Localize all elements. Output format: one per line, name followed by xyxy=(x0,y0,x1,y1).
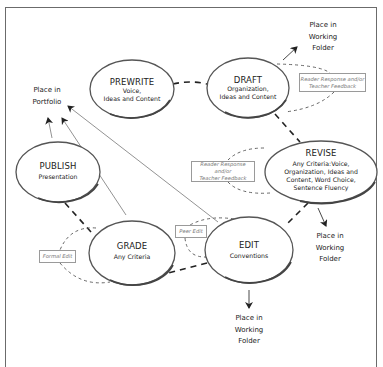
prewrite-subtitle-2: Ideas and Content xyxy=(92,95,172,103)
wf-revise-line-3: Folder xyxy=(305,254,355,266)
formal-edit-label: Formal Edit xyxy=(43,253,73,260)
revise-subtitle-1: Any Criteria:Voice, xyxy=(268,160,374,168)
wf-draft-line-3: Folder xyxy=(298,43,348,55)
draft-feedback-box: Reader Response and/or Teacher Feedback xyxy=(299,73,366,92)
stage-draft: DRAFT Organization, Ideas and Content xyxy=(208,75,288,101)
edit-subtitle: Conventions xyxy=(209,252,289,260)
edit-title: EDIT xyxy=(209,240,289,250)
wf-edit-line-2: Working xyxy=(224,325,274,337)
stage-edit: EDIT Conventions xyxy=(209,240,289,260)
formal-edit-box: Formal Edit xyxy=(39,250,76,263)
grade-title: GRADE xyxy=(92,241,172,251)
working-folder-edit: Place in Working Folder xyxy=(224,313,274,348)
peer-edit-label: Peer Edit xyxy=(179,228,202,235)
revise-subtitle-3: Content, Word Choice, xyxy=(268,176,374,184)
revise-title: REVISE xyxy=(268,148,374,158)
revise-feedback-line-2: Teacher Feedback xyxy=(200,175,247,182)
draft-subtitle-1: Organization, xyxy=(208,85,288,93)
peer-edit-box: Peer Edit xyxy=(175,225,207,238)
working-folder-revise: Place in Working Folder xyxy=(305,231,355,266)
draft-feedback-line-1: Reader Response and/or xyxy=(301,76,365,83)
wf-revise-line-2: Working xyxy=(305,243,355,255)
working-folder-draft: Place in Working Folder xyxy=(298,20,348,55)
portfolio-line-2: Portfolio xyxy=(22,97,72,109)
publish-title: PUBLISH xyxy=(18,161,98,171)
stage-publish: PUBLISH Presentation xyxy=(18,161,98,181)
prewrite-title: PREWRITE xyxy=(92,77,172,87)
draft-feedback-line-2: Teacher Feedback xyxy=(309,83,356,90)
revise-feedback-line-1: Reader Response and/or xyxy=(192,161,254,175)
stage-prewrite: PREWRITE Voice, Ideas and Content xyxy=(92,77,172,103)
wf-edit-line-3: Folder xyxy=(224,336,274,348)
revise-subtitle-4: Sentence Fluency xyxy=(268,184,374,192)
wf-draft-line-1: Place in xyxy=(298,20,348,32)
revise-feedback-box: Reader Response and/or Teacher Feedback xyxy=(191,161,255,182)
prewrite-subtitle-1: Voice, xyxy=(92,87,172,95)
wf-revise-line-1: Place in xyxy=(305,231,355,243)
wf-edit-line-1: Place in xyxy=(224,313,274,325)
stage-grade: GRADE Any Criteria xyxy=(92,241,172,261)
portfolio-line-1: Place in xyxy=(22,85,72,97)
stage-revise: REVISE Any Criteria:Voice, Organization,… xyxy=(268,148,374,192)
wf-draft-line-2: Working xyxy=(298,32,348,44)
grade-subtitle: Any Criteria xyxy=(92,253,172,261)
draft-title: DRAFT xyxy=(208,75,288,85)
draft-subtitle-2: Ideas and Content xyxy=(208,93,288,101)
portfolio-destination: Place in Portfolio xyxy=(22,85,72,108)
publish-subtitle: Presentation xyxy=(18,173,98,181)
revise-subtitle-2: Organization, Ideas and xyxy=(268,168,374,176)
